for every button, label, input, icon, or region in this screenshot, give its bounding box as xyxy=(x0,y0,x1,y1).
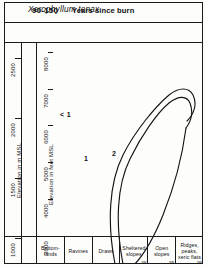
axis-elevation-feet: Elevation in feet MSL 8000 7000 6000 500… xyxy=(21,43,36,264)
cat-cell-ridges-peaks: Ridges, peaks,xeric flats sw xyxy=(176,237,203,264)
tick-label-m-1500: 1500 xyxy=(10,183,16,197)
topographic-category-strip: Bottom-lands Ravines Draws Shelteredslop… xyxy=(4,236,203,264)
cat-cell-bottomlands: Bottom-lands xyxy=(37,237,65,264)
contour-label-1: 1 xyxy=(84,155,88,162)
cat-corner-ridges-peaks: sw xyxy=(197,259,202,264)
cat-label-ridges-peaks: Ridges, peaks,xeric flats xyxy=(177,242,202,260)
burn-range-value: 90-150 xyxy=(32,6,58,15)
cat-corner-open-slopes: sw xyxy=(169,259,174,264)
contour-plot: < 1 1 2 xyxy=(37,43,203,264)
contour-label-2: 2 xyxy=(112,150,116,157)
cat-label-draws: Draws xyxy=(98,248,113,254)
cat-cell-sheltered-slopes: Shelteredslopes sw xyxy=(120,237,148,264)
contour-label-less-than-1: < 1 xyxy=(60,111,71,118)
cat-label-ravines: Ravines xyxy=(69,248,88,254)
cat-label-sheltered-slopes: Shelteredslopes xyxy=(122,245,145,257)
cat-label-bottomlands: Bottom-lands xyxy=(41,245,60,257)
burn-range-label: Years since burn xyxy=(72,6,134,15)
tick-label-m-2000: 2000 xyxy=(10,123,16,137)
figure-panel: Xerophyllum tenax 90-150 Years since bur… xyxy=(0,0,207,267)
plot-body: Elevation in m MSL 2500 2000 1500 1000 E… xyxy=(4,43,203,264)
tick-label-m-2500: 2500 xyxy=(10,63,16,77)
axis-elevation-metric: Elevation in m MSL 2500 2000 1500 1000 xyxy=(4,43,21,264)
cat-cell-draws: Draws xyxy=(93,237,121,264)
cat-corner-sheltered-slopes: sw xyxy=(141,259,146,264)
cat-label-open-slopes: Open slopes xyxy=(149,245,174,257)
contour-svg xyxy=(37,43,203,264)
cat-strip-spacer xyxy=(4,237,37,264)
burn-band xyxy=(4,23,203,43)
cat-cell-open-slopes: Open slopes sw xyxy=(148,237,176,264)
cat-cell-ravines: Ravines xyxy=(65,237,93,264)
